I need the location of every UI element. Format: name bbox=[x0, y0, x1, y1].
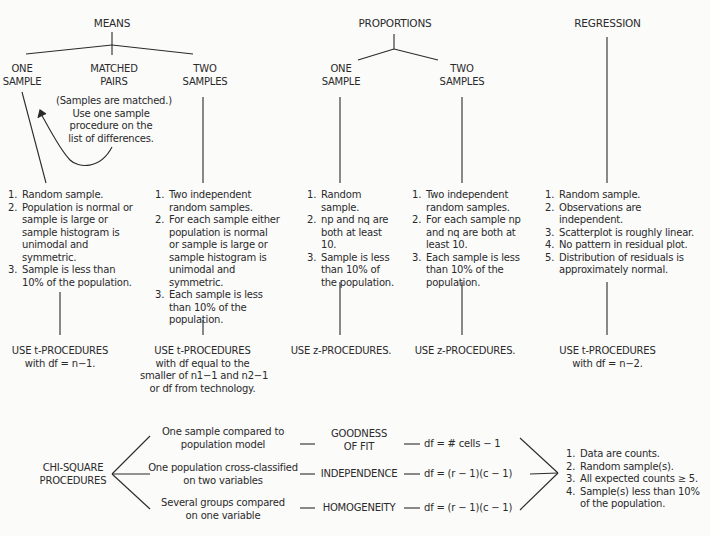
proportions-two-samples-conditions: 1.Two independent random samples. 2.For … bbox=[412, 189, 530, 289]
label-line: SAMPLE bbox=[0, 76, 44, 89]
condition-item: 1.Two independent random samples. bbox=[155, 189, 280, 214]
name-line: GOODNESS bbox=[316, 428, 402, 441]
chi-test-df: df = (r − 1)(c − 1) bbox=[424, 502, 512, 515]
note-line: procedure on the bbox=[56, 120, 166, 133]
condition-item: 2.For each sample np and nq are both at … bbox=[412, 214, 530, 252]
condition-text: Each sample is less than 10% of the popu… bbox=[426, 252, 520, 288]
condition-item: 1.Two independent random samples. bbox=[412, 189, 530, 214]
note-line: Use one sample bbox=[56, 108, 166, 121]
label-line: MATCHED bbox=[84, 63, 144, 76]
proportions-header: PROPORTIONS bbox=[350, 17, 440, 30]
condition-item: 3.Scatterplot is roughly linear. bbox=[545, 227, 705, 240]
chi-test-description: Several groups compared on one variable bbox=[148, 497, 298, 522]
condition-text: Random sample. bbox=[321, 189, 361, 213]
proportions-two-samples-label: TWO SAMPLES bbox=[434, 63, 490, 88]
regression-result: USE t-PROCEDURES with df = n−2. bbox=[550, 345, 665, 370]
condition-text: For each sample either population is nor… bbox=[169, 214, 280, 288]
result-line: USE t-PROCEDURES bbox=[550, 345, 665, 358]
label-line: ONE bbox=[316, 63, 366, 76]
means-one-sample-conditions: 1.Random sample. 2.Population is normal … bbox=[8, 189, 133, 289]
result-line: with df equal to the bbox=[140, 358, 265, 371]
label-line: CHI-SQUARE bbox=[36, 462, 110, 475]
condition-text: No pattern in residual plot. bbox=[559, 239, 688, 250]
note-line: list of differences. bbox=[56, 133, 166, 146]
condition-text: Sample is less than 10% of the populatio… bbox=[22, 264, 132, 288]
result-line: with df = n−2. bbox=[550, 358, 665, 371]
chi-test-df: df = (r − 1)(c − 1) bbox=[424, 468, 512, 481]
result-line: with df = n−1. bbox=[0, 358, 120, 371]
label-line: SAMPLES bbox=[180, 76, 230, 89]
name-line: OF FIT bbox=[316, 441, 402, 454]
condition-item: 1.Random sample. bbox=[545, 189, 705, 202]
chi-square-conditions: 1.Data are counts. 2.Random sample(s). 3… bbox=[566, 448, 710, 511]
condition-text: Two independent random samples. bbox=[169, 189, 253, 213]
condition-item: 2.Random sample(s). bbox=[566, 461, 710, 474]
chi-square-label: CHI-SQUARE PROCEDURES bbox=[36, 462, 110, 487]
means-two-samples-result: USE t-PROCEDURES with df equal to the sm… bbox=[140, 345, 265, 395]
description-line: on one variable bbox=[148, 510, 298, 523]
condition-item: 1.Random sample. bbox=[8, 189, 133, 202]
chi-test-name: HOMOGENEITY bbox=[316, 502, 402, 515]
condition-text: For each sample np and nq are both at le… bbox=[426, 214, 521, 250]
means-two-samples-label: TWO SAMPLES bbox=[180, 63, 230, 88]
result-line: or df from technology. bbox=[140, 383, 265, 396]
condition-item: 1.Data are counts. bbox=[566, 448, 710, 461]
condition-item: 2.For each sample either population is n… bbox=[155, 214, 280, 289]
label-line: ONE bbox=[0, 63, 44, 76]
condition-text: Two independent random samples. bbox=[426, 189, 510, 213]
description-line: One sample compared to bbox=[148, 426, 298, 439]
condition-item: 3.Each sample is less than 10% of the po… bbox=[155, 289, 280, 327]
description-line: population model bbox=[148, 439, 298, 452]
condition-text: Random sample. bbox=[559, 189, 640, 200]
result-line: smaller of n1−1 and n2−1 bbox=[140, 370, 265, 383]
condition-text: Population is normal or sample is large … bbox=[22, 202, 133, 263]
condition-item: 1.Random sample. bbox=[307, 189, 395, 214]
description-line: Several groups compared bbox=[148, 497, 298, 510]
label-line: SAMPLE bbox=[316, 76, 366, 89]
proportions-two-samples-result: USE z-PROCEDURES. bbox=[410, 345, 520, 358]
condition-item: 2.np and nq are both at least 10. bbox=[307, 214, 395, 252]
proportions-one-sample-conditions: 1.Random sample. 2.np and nq are both at… bbox=[307, 189, 395, 289]
label-line: PROCEDURES bbox=[36, 475, 110, 488]
condition-text: All expected counts ≥ 5. bbox=[580, 473, 698, 484]
condition-text: Distribution of residuals is approximate… bbox=[559, 252, 684, 276]
means-one-sample-result: USE t-PROCEDURES with df = n−1. bbox=[0, 345, 120, 370]
condition-item: 5.Distribution of residuals is approxima… bbox=[545, 252, 705, 277]
label-line: SAMPLES bbox=[434, 76, 490, 89]
note-line: (Samples are matched.) bbox=[56, 95, 166, 108]
description-line: on two variables bbox=[148, 475, 298, 488]
condition-item: 3.All expected counts ≥ 5. bbox=[566, 473, 710, 486]
label-line: TWO bbox=[434, 63, 490, 76]
condition-item: 4.Sample(s) less than 10% of the populat… bbox=[566, 486, 710, 511]
description-line: One population cross-classified bbox=[148, 462, 298, 475]
means-header: MEANS bbox=[82, 17, 142, 30]
condition-text: np and nq are both at least 10. bbox=[321, 214, 388, 250]
proportions-one-sample-label: ONE SAMPLE bbox=[316, 63, 366, 88]
label-line: TWO bbox=[180, 63, 230, 76]
chi-test-df: df = # cells − 1 bbox=[424, 438, 500, 451]
chi-test-description: One sample compared to population model bbox=[148, 426, 298, 451]
label-line: PAIRS bbox=[84, 76, 144, 89]
result-line: USE t-PROCEDURES bbox=[140, 345, 265, 358]
condition-item: 3.Sample is less than 10% of the populat… bbox=[307, 252, 395, 290]
condition-item: 2.Observations are independent. bbox=[545, 202, 705, 227]
means-matched-pairs-label: MATCHED PAIRS bbox=[84, 63, 144, 88]
condition-text: Sample is less than 10% of the populatio… bbox=[321, 252, 394, 288]
condition-item: 3.Sample is less than 10% of the populat… bbox=[8, 264, 133, 289]
chi-test-description: One population cross-classified on two v… bbox=[148, 462, 298, 487]
matched-pairs-note: (Samples are matched.) Use one sample pr… bbox=[56, 95, 166, 145]
means-one-sample-label: ONE SAMPLE bbox=[0, 63, 44, 88]
result-line: USE t-PROCEDURES bbox=[0, 345, 120, 358]
regression-conditions: 1.Random sample. 2.Observations are inde… bbox=[545, 189, 705, 277]
condition-text: Data are counts. bbox=[580, 448, 660, 459]
condition-text: Scatterplot is roughly linear. bbox=[559, 227, 694, 238]
condition-item: 3.Each sample is less than 10% of the po… bbox=[412, 252, 530, 290]
regression-header: REGRESSION bbox=[565, 17, 650, 30]
means-two-samples-conditions: 1.Two independent random samples. 2.For … bbox=[155, 189, 280, 327]
chi-test-name: GOODNESS OF FIT bbox=[316, 428, 402, 453]
condition-text: Random sample(s). bbox=[580, 461, 674, 472]
chi-test-name: INDEPENDENCE bbox=[316, 468, 402, 481]
condition-item: 4.No pattern in residual plot. bbox=[545, 239, 705, 252]
condition-text: Observations are independent. bbox=[559, 202, 641, 226]
condition-item: 2.Population is normal or sample is larg… bbox=[8, 202, 133, 265]
